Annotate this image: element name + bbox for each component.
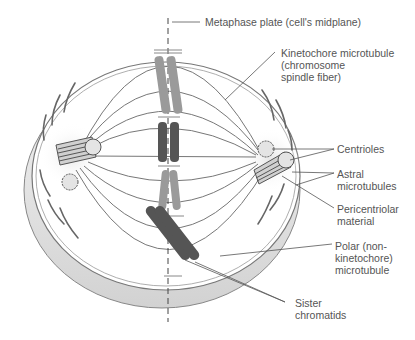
label-kinetochore-microtubule: Kinetochore microtubule (chromosome spin…: [281, 47, 394, 83]
label-sister-chromatids: Sister chromatids: [295, 297, 346, 321]
label-metaphase-plate: Metaphase plate (cell's midplane): [205, 16, 361, 28]
label-polar-microtubule: Polar (non- kinetochore) microtubule: [335, 240, 393, 276]
label-astral-microtubules: Astral microtubules: [337, 168, 397, 192]
label-pericentriolar-material: Pericentriolar material: [337, 203, 399, 227]
label-centrioles: Centrioles: [337, 143, 384, 155]
